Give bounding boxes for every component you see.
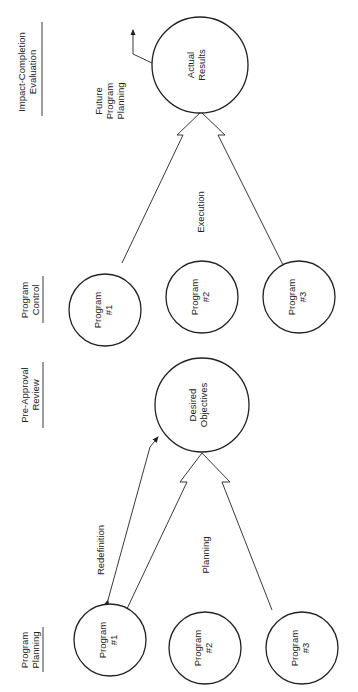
node-planning-program-1: Program #1 (74, 604, 146, 676)
diagram-canvas: Impact-Completion Evaluation Program Con… (0, 0, 358, 692)
svg-text:Evaluation: Evaluation (27, 50, 38, 94)
edge-label-future-program-planning: Future Program Planning (93, 83, 126, 120)
node-desired-objectives: Desired Objectives (155, 358, 249, 452)
edge-label-execution: Execution (195, 191, 206, 233)
node-control-program-1: Program #1 (69, 274, 141, 346)
svg-text:#2: #2 (203, 643, 214, 654)
redefinition-arrow (108, 437, 158, 600)
svg-text:Impact-Completion: Impact-Completion (16, 32, 27, 112)
svg-text:#3: #3 (297, 292, 308, 303)
node-planning-program-3: Program #3 (266, 612, 338, 684)
svg-text:Program: Program (104, 83, 115, 120)
svg-text:#1: #1 (103, 305, 114, 316)
svg-text:Program: Program (189, 279, 200, 316)
svg-text:Program: Program (289, 630, 300, 667)
edge-label-redefinition: Redefinition (95, 525, 106, 575)
svg-text:Review: Review (30, 379, 41, 410)
svg-text:Planning: Planning (30, 632, 41, 669)
stage-program-control: Program Control (19, 276, 43, 323)
stage-pre-approval-review: Pre-Approval Review (19, 362, 43, 428)
svg-text:#1: #1 (108, 635, 119, 646)
svg-text:Desired: Desired (187, 389, 198, 422)
planning-arrow (125, 453, 272, 613)
node-planning-program-2: Program #2 (169, 612, 241, 684)
svg-text:Program: Program (92, 292, 103, 329)
svg-text:Future: Future (93, 87, 104, 114)
svg-text:Program: Program (192, 630, 203, 667)
svg-text:Program: Program (286, 279, 297, 316)
svg-text:#3: #3 (300, 643, 311, 654)
svg-text:Program: Program (97, 622, 108, 659)
svg-text:Planning: Planning (115, 83, 126, 120)
svg-text:Results: Results (196, 49, 207, 81)
svg-text:Program: Program (19, 632, 30, 669)
execution-arrow (122, 112, 283, 265)
stage-impact-completion-evaluation: Impact-Completion Evaluation (16, 22, 42, 116)
future-planning-arrow (133, 30, 152, 63)
node-control-program-3: Program #3 (263, 261, 335, 333)
stage-program-planning: Program Planning (19, 627, 43, 672)
svg-text:Control: Control (30, 285, 41, 316)
svg-text:Pre-Approval: Pre-Approval (19, 367, 30, 422)
svg-text:Actual: Actual (185, 52, 196, 78)
svg-text:Objectives: Objectives (198, 383, 209, 428)
svg-text:#2: #2 (200, 292, 211, 303)
edge-label-planning: Planning (200, 537, 211, 574)
node-control-program-2: Program #2 (166, 261, 238, 333)
node-actual-results: Actual Results (152, 17, 248, 113)
svg-text:Program: Program (19, 282, 30, 319)
